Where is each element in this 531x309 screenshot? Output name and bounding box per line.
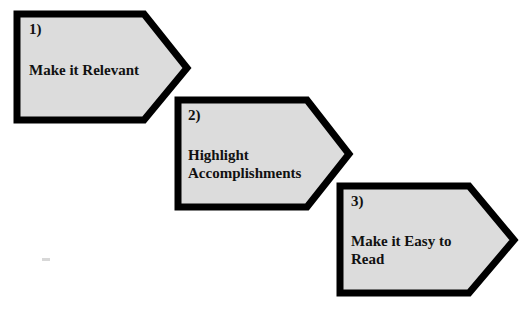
scan-artifact xyxy=(42,258,50,261)
arrow-shapes xyxy=(0,0,531,309)
step-2-title-line1: Highlight xyxy=(188,146,249,164)
process-diagram: 1) Make it Relevant 2) Highlight Accompl… xyxy=(0,0,531,309)
step-2-title-line2: Accomplishments xyxy=(188,164,301,182)
step-3-title-line2: Read xyxy=(351,250,384,268)
step-1-title: Make it Relevant xyxy=(29,61,139,79)
step-2-number: 2) xyxy=(188,106,201,124)
step-3-number: 3) xyxy=(351,192,364,210)
step-1-number: 1) xyxy=(29,20,42,38)
step-3-title-line1: Make it Easy to xyxy=(351,232,451,250)
